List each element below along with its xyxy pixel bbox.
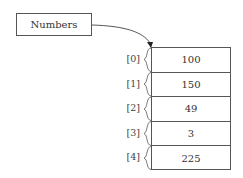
cell-value: 150 [181, 79, 200, 90]
cell-value: 49 [185, 103, 198, 114]
index-label: [2] [120, 102, 140, 113]
array-box: 100 150 49 3 225 [151, 47, 231, 170]
brace-icons [144, 48, 151, 170]
index-label: [3] [120, 127, 140, 138]
array-cell: 225 [152, 146, 230, 171]
array-cell: 100 [152, 48, 230, 73]
index-label: [4] [120, 151, 140, 162]
array-cell: 49 [152, 97, 230, 122]
array-cell: 3 [152, 122, 230, 147]
index-label: [1] [120, 78, 140, 89]
cell-value: 3 [188, 128, 194, 139]
cell-value: 225 [181, 153, 200, 164]
index-label: [0] [120, 53, 140, 64]
array-cell: 150 [152, 73, 230, 98]
cell-value: 100 [181, 54, 200, 65]
